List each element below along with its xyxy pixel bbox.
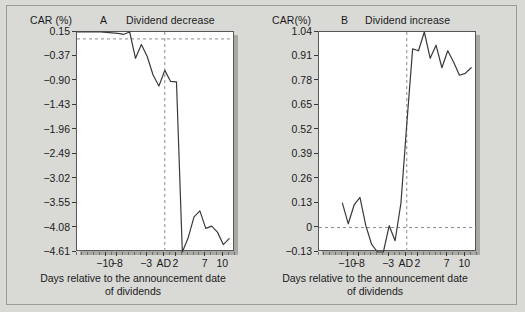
panel-a-y-tick-mark (72, 55, 76, 56)
panel-a-x-tick-label: −8 (111, 257, 123, 269)
panel-a-x-minor-tick-mark (76, 252, 77, 255)
panel-b-x-axis-caption-line1: Days relative to the announcement date (250, 272, 500, 285)
panel-b-y-tick-mark (314, 177, 318, 178)
panel-b-x-minor-tick-mark (376, 252, 377, 255)
panel-b-x-minor-tick-mark (394, 252, 395, 255)
panel-a-x-axis-caption-line2: of dividends (8, 285, 258, 298)
panel-a-y-tick-mark (72, 31, 76, 32)
panel-a-x-minor-tick-mark (187, 252, 188, 255)
panel-b-x-tick-label: 7 (444, 257, 450, 269)
panel-b-x-tick-label: 10 (458, 257, 470, 269)
panel-b-x-tick-mark (358, 252, 359, 256)
panel-b-title: Dividend increase (365, 14, 450, 26)
panel-a-x-minor-tick-mark (152, 252, 153, 255)
panel-a-x-minor-tick-mark (81, 252, 82, 255)
panel-a-y-tick-mark (72, 226, 76, 227)
panel-b-x-minor-tick-mark (435, 252, 436, 255)
panel-a-x-minor-tick-mark (198, 252, 199, 255)
panel-a-y-tick-label: −3.02 (30, 172, 70, 184)
panel-a-x-minor-tick-mark (216, 252, 217, 255)
panel-a-x-minor-tick-mark (87, 252, 88, 255)
panel-a-x-minor-tick-mark (128, 252, 129, 255)
panel-a-y-tick-label: −0.90 (30, 74, 70, 86)
panel-a-x-tick-mark (146, 252, 147, 256)
panel-a-y-tick-label: −4.08 (30, 221, 70, 233)
panel-a-y-tick-label: −3.55 (30, 196, 70, 208)
panel-a-y-tick-mark (72, 153, 76, 154)
panel-a-y-tick-label: −0.37 (30, 49, 70, 61)
panel-b-x-minor-tick-mark (341, 252, 342, 255)
panel-b-y-tick-label: 0.78 (272, 74, 312, 86)
panel-b-x-minor-tick-mark (458, 252, 459, 255)
panel-b-x-minor-tick-mark (423, 252, 424, 255)
panel-b-y-tick-mark (314, 104, 318, 105)
panel-a-y-tick-label: −4.61 (30, 245, 70, 257)
panel-b-y-tick-mark (314, 31, 318, 32)
panel-b-x-minor-tick-mark (364, 252, 365, 255)
panel-b-y-tick-label: 1.04 (272, 25, 312, 37)
panel-b-x-tick-label: 2 (415, 257, 421, 269)
panel-a-x-tick-mark (175, 252, 176, 256)
panel-b-x-minor-tick-mark (318, 252, 319, 255)
panel-b-x-tick-label: AD (398, 257, 413, 269)
figure-root: CAR (%) A Dividend decrease 0.15−0.37−0.… (0, 0, 525, 312)
panel-b-x-minor-tick-mark (323, 252, 324, 255)
panel-b-x-minor-tick-mark (470, 252, 471, 255)
panel-b-y-tick-mark (314, 128, 318, 129)
panel-b-x-minor-tick-mark (399, 252, 400, 255)
panel-a-x-minor-tick-mark (122, 252, 123, 255)
panel-a-x-tick-label: 7 (202, 257, 208, 269)
panel-b-series-canvas (319, 32, 477, 252)
panel-a-y-tick-label: −1.43 (30, 98, 70, 110)
panel-a-y-tick-mark (72, 251, 76, 252)
panel-a-y-tick-mark (72, 202, 76, 203)
panel-b-x-tick-mark (417, 252, 418, 256)
panel-b-x-minor-tick-mark (353, 252, 354, 255)
panel-b-y-tick-label: 0.52 (272, 123, 312, 135)
panel-b-x-tick-mark (405, 252, 406, 256)
panel-b-x-minor-tick-mark (411, 252, 412, 255)
panel-a-y-tick-label: −2.49 (30, 147, 70, 159)
panel-b-y-tick-label: 0.13 (272, 196, 312, 208)
panel-b-x-tick-mark (347, 252, 348, 256)
panel-b-plot-area (318, 31, 476, 251)
panel-a-y-tick-label: −1.96 (30, 123, 70, 135)
panel-b-y-tick-mark (314, 226, 318, 227)
panel-b-x-tick-mark (446, 252, 447, 256)
panel-a-x-minor-tick-mark (111, 252, 112, 255)
chart-panel-a: CAR (%) A Dividend decrease 0.15−0.37−0.… (8, 0, 258, 300)
panel-a-x-tick-mark (105, 252, 106, 256)
panel-b-y-tick-mark (314, 153, 318, 154)
panel-a-x-minor-tick-mark (99, 252, 100, 255)
panel-b-x-minor-tick-mark (476, 252, 477, 255)
panel-a-x-tick-label: AD (156, 257, 171, 269)
panel-a-y-tick-mark (72, 79, 76, 80)
panel-b-x-minor-tick-mark (329, 252, 330, 255)
panel-a-series-canvas (77, 32, 235, 252)
panel-b-y-tick-label: 0.65 (272, 98, 312, 110)
panel-b-y-tick-mark (314, 79, 318, 80)
panel-a-x-minor-tick-mark (169, 252, 170, 255)
panel-b-y-tick-label: 0.26 (272, 172, 312, 184)
panel-a-x-axis-caption-line1: Days relative to the announcement date (8, 272, 258, 285)
panel-b-x-axis-caption: Days relative to the announcement date o… (250, 272, 500, 298)
panel-b-x-minor-tick-mark (440, 252, 441, 255)
panel-a-x-tick-mark (204, 252, 205, 256)
panel-b-y-tick-mark (314, 55, 318, 56)
panel-a-x-tick-label: 2 (173, 257, 179, 269)
panel-b-x-tick-label: −3 (382, 257, 394, 269)
panel-b-x-tick-mark (464, 252, 465, 256)
panel-b-x-minor-tick-mark (370, 252, 371, 255)
panel-a-x-minor-tick-mark (134, 252, 135, 255)
panel-a-x-minor-tick-mark (140, 252, 141, 255)
panel-a-x-tick-mark (116, 252, 117, 256)
panel-a-x-minor-tick-mark (210, 252, 211, 255)
panel-a-y-tick-mark (72, 177, 76, 178)
panel-b-y-tick-label: 0.39 (272, 147, 312, 159)
panel-a-y-tick-label: 0.15 (30, 25, 70, 37)
car-series-line (77, 32, 229, 252)
panel-b-x-tick-label: −8 (353, 257, 365, 269)
chart-panel-b: CAR(%) B Dividend increase 1.040.910.780… (258, 0, 508, 300)
panel-a-letter: A (100, 14, 107, 26)
panel-a-plot-area (76, 31, 234, 251)
